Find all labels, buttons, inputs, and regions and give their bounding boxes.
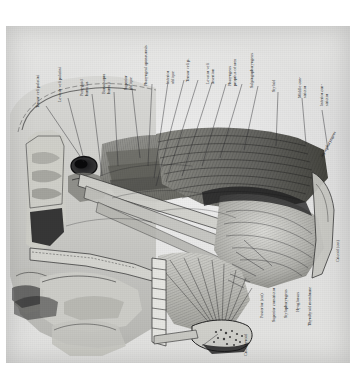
label-inferior-oblique: Inferior oblique xyxy=(166,71,175,84)
label-pharyngeus-proprius: Pharyngeus proprius of area xyxy=(228,59,237,86)
label-superior-oblique: Superior oblique xyxy=(124,75,133,90)
printed-plate-area: Tensor veli palatini Levator veli palati… xyxy=(6,26,350,363)
label-cricothyroid: Cricothyroid xyxy=(244,334,249,356)
tooth-row xyxy=(152,258,166,346)
label-pharyngeal-aponeurosis: Pharyngeal aponeurosis xyxy=(144,45,149,86)
label-inferior-constrictor: Inferior con- strictor xyxy=(320,84,329,106)
label-salpingopharyngeus: Salpingopharyngeus xyxy=(250,53,255,88)
label-superior-constrictor: Superior constrictor xyxy=(272,288,277,322)
label-levator-veli-insertion: Levator veli insertion xyxy=(206,63,215,84)
label-stylopharyngeus: Stylopharyngeus xyxy=(284,289,289,318)
label-hyoglossus: Hyoglossus xyxy=(296,292,301,312)
label-tensor-veli-palatini: Tensor veli palatini xyxy=(36,75,41,108)
illustration-root: Tensor veli palatini Levator veli palati… xyxy=(0,0,353,367)
label-middle-constrictor: Middle con- strictor xyxy=(298,77,307,98)
label-posterior-cut: Posterior (cut) xyxy=(260,293,265,318)
label-thyrohyoid-membrane: Thyrohyoid membrane xyxy=(308,287,313,326)
label-tensor-veli: Tensor veli p. xyxy=(186,59,191,83)
label-pterygoid-hamulus: Pterygoid hamulus xyxy=(80,79,89,96)
label-levator-veli-palatini: Levator veli palatini xyxy=(58,67,63,102)
label-styloid-process: Styloid xyxy=(272,80,277,92)
label-cricoid-cut: Cricoid (cut) xyxy=(336,240,341,262)
label-bursa-supra-hamuli: Bursa supra hamuli xyxy=(102,74,111,94)
